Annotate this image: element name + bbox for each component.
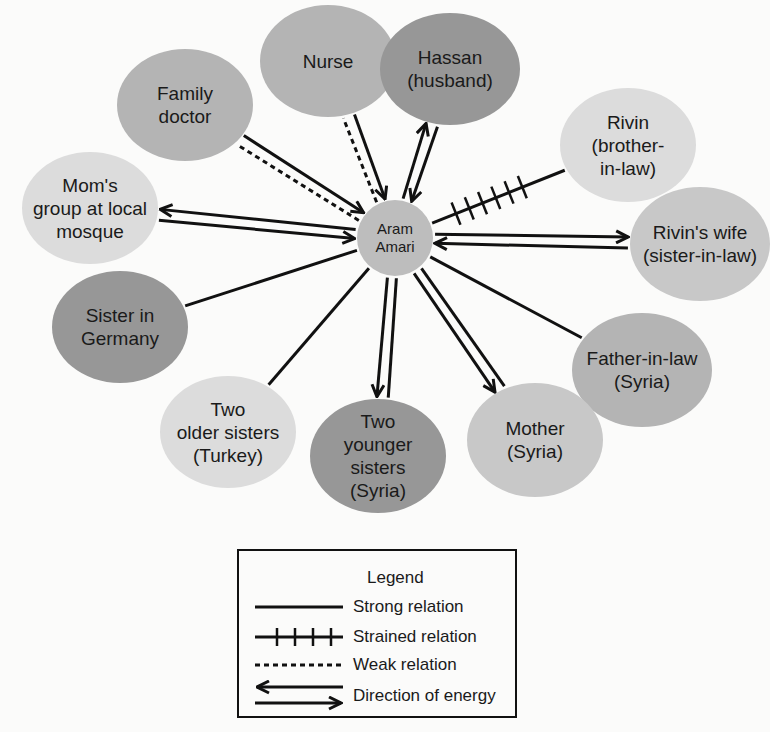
connection-strained-rivin [432, 170, 565, 223]
node-mother [467, 383, 603, 497]
legend-title: Legend [367, 568, 424, 588]
node-hassan [380, 13, 520, 125]
connection-strong-family-doctor [244, 136, 364, 213]
legend-label: Direction of energy [353, 686, 496, 706]
legend-item-weak: Weak relation [253, 653, 457, 677]
node-rivins-wife [630, 187, 770, 301]
connection-strong-younger-sisters [377, 278, 387, 397]
node-nurse [260, 5, 396, 117]
node-older-sisters [160, 376, 296, 488]
legend-label: Weak relation [353, 655, 457, 675]
connection-strong-father-in-law [430, 257, 581, 338]
connection-strong-mother [414, 273, 495, 392]
connection-strong-sister-germany [185, 250, 357, 306]
connection-weak-family-doctor [237, 145, 358, 221]
legend-item-strong: Strong relation [253, 595, 464, 619]
strong-line-icon [253, 595, 347, 619]
connection-strong-younger-sisters [388, 278, 396, 397]
node-family-doctor [117, 49, 253, 161]
connection-strong-rivins-wife [435, 243, 628, 248]
connection-strong-mother [421, 268, 504, 386]
node-younger-sisters [310, 399, 446, 513]
connection-strong-hassan [403, 123, 426, 198]
connection-strong-rivins-wife [435, 234, 628, 237]
weak-line-icon [253, 653, 347, 677]
legend: Legend Strong relation Strained relation… [237, 549, 517, 718]
legend-label: Strong relation [353, 597, 464, 617]
connection-strong-moms-group [159, 220, 355, 238]
legend-label: Strained relation [353, 627, 477, 647]
nodes [22, 5, 770, 513]
connection-strong-older-sisters [269, 268, 369, 384]
strained-line-icon [253, 625, 347, 649]
legend-item-strained: Strained relation [253, 625, 477, 649]
energy-arrows-icon [253, 679, 347, 713]
connection-strong-hassan [412, 127, 438, 202]
node-sister-germany [52, 271, 188, 383]
node-father-in-law [572, 313, 712, 427]
node-rivin [560, 88, 696, 202]
legend-item-energy: Direction of energy [253, 679, 496, 713]
connection-strong-moms-group [160, 209, 356, 229]
node-center-aram-amari [357, 200, 433, 276]
node-moms-group [22, 152, 158, 264]
